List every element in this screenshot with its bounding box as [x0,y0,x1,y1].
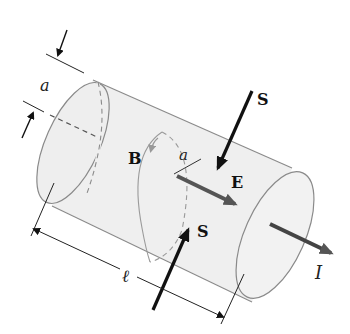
poynting-label-top: S [257,90,269,109]
cylinder [22,73,330,310]
length-label: ℓ [122,266,129,286]
current-label: I [314,262,323,283]
inner-radius-label: a [179,146,188,164]
e-field-label: E [231,173,243,192]
b-field-label: B [128,149,142,168]
wire-poynting-diagram: B a E I S S a ℓ [0,0,350,334]
radius-label: a [40,76,50,95]
poynting-label-bottom: S [197,222,209,241]
